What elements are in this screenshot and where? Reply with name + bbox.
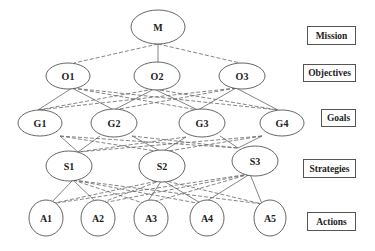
level-label-mission: Mission <box>307 26 356 45</box>
node-O1: O1 <box>46 63 90 89</box>
node-O3: O3 <box>219 63 265 89</box>
level-label-objectives: Objectives <box>303 64 356 82</box>
node-G2: G2 <box>91 109 137 137</box>
node-A4: A4 <box>190 200 224 236</box>
svg-text:G3: G3 <box>196 118 209 129</box>
svg-text:G1: G1 <box>34 118 47 129</box>
level-label-goals: Goals <box>321 109 356 127</box>
svg-text:S3: S3 <box>250 156 261 167</box>
node-S3: S3 <box>232 146 278 176</box>
node-S2: S2 <box>139 150 185 182</box>
svg-text:O1: O1 <box>62 71 75 82</box>
svg-text:M: M <box>153 22 163 33</box>
svg-text:A4: A4 <box>201 213 213 224</box>
node-G3: G3 <box>179 109 225 137</box>
svg-text:G2: G2 <box>108 118 121 129</box>
svg-text:A5: A5 <box>264 213 276 224</box>
svg-text:O2: O2 <box>151 71 164 82</box>
svg-text:S2: S2 <box>157 161 168 172</box>
node-A3: A3 <box>134 200 168 236</box>
svg-text:A1: A1 <box>40 213 52 224</box>
svg-text:O3: O3 <box>236 71 249 82</box>
svg-text:G4: G4 <box>276 118 289 129</box>
node-O2: O2 <box>134 62 180 90</box>
node-G4: G4 <box>260 110 304 136</box>
level-label-strategies: Strategies <box>303 159 356 178</box>
node-A5: A5 <box>254 200 286 236</box>
svg-text:A3: A3 <box>145 213 157 224</box>
svg-text:S1: S1 <box>64 161 75 172</box>
node-G1: G1 <box>18 110 62 136</box>
node-A2: A2 <box>81 200 115 236</box>
svg-text:A2: A2 <box>92 213 104 224</box>
node-A1: A1 <box>29 200 63 236</box>
level-label-actions: Actions <box>307 212 356 231</box>
node-S1: S1 <box>46 151 92 181</box>
node-M: M <box>131 10 185 44</box>
